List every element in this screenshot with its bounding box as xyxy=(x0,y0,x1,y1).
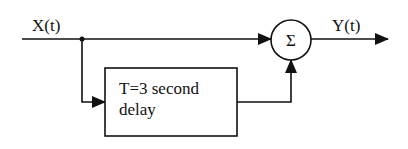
branch-to-delay-line xyxy=(82,39,105,102)
input-label: X(t) xyxy=(32,16,60,35)
delay-label-line1: T=3 second xyxy=(119,79,199,98)
block-diagram: X(t) T=3 second delay Σ Y(t) xyxy=(0,0,408,149)
output-label: Y(t) xyxy=(332,16,360,35)
sigma-symbol: Σ xyxy=(286,31,296,50)
delay-label-line2: delay xyxy=(119,100,156,119)
delay-output-line xyxy=(237,60,291,102)
